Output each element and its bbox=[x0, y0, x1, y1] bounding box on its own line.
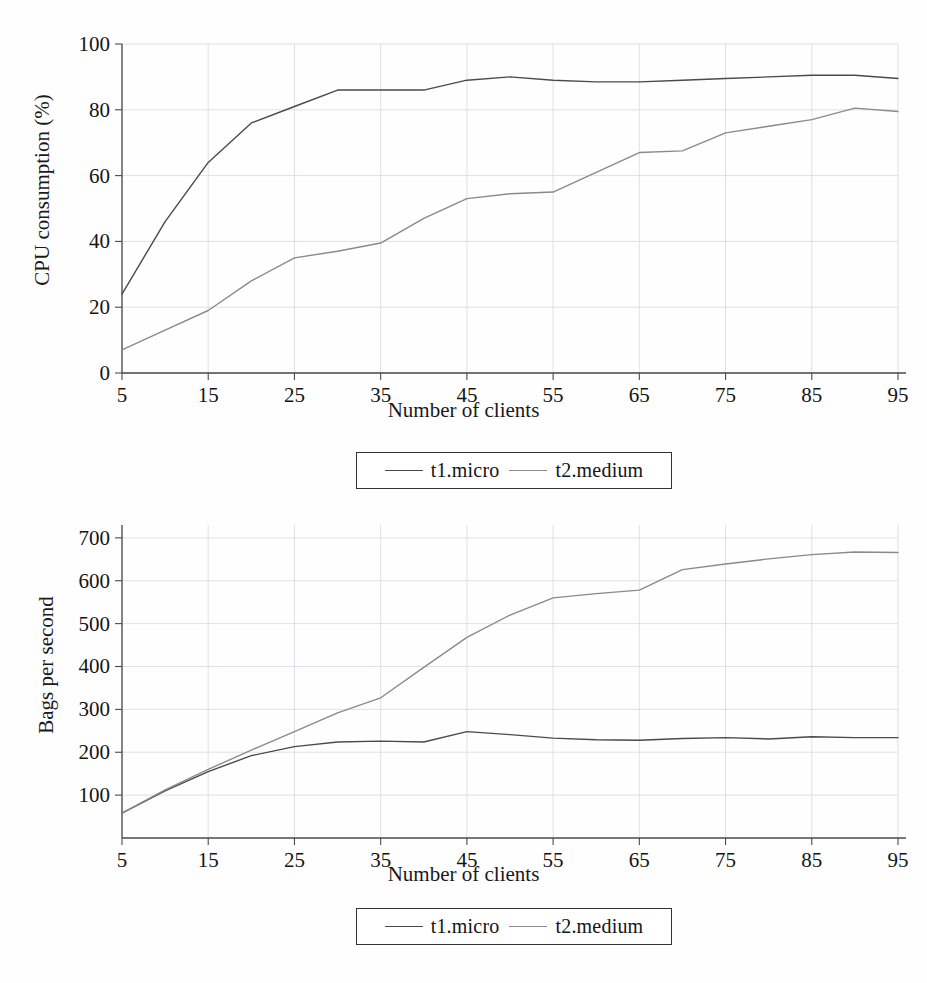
bags-per-second-plot: 1002003004005006007005152535455565758595 bbox=[0, 500, 927, 890]
y-tick-label: 200 bbox=[79, 740, 111, 764]
legend-label-t1-micro: t1.micro bbox=[431, 459, 500, 482]
cpu-x-axis-title: Number of clients bbox=[0, 398, 927, 423]
y-tick-label: 700 bbox=[79, 526, 111, 550]
y-tick-label: 600 bbox=[79, 569, 111, 593]
legend-entry-t2-medium: t2.medium bbox=[509, 459, 643, 482]
legend-entry-t1-micro: t1.micro bbox=[385, 915, 500, 938]
y-tick-label: 80 bbox=[89, 98, 110, 122]
throughput-legend: t1.micro t2.medium bbox=[356, 908, 672, 945]
y-tick-label: 100 bbox=[79, 32, 111, 56]
cpu-y-axis-title: CPU consumption (%) bbox=[30, 40, 55, 340]
legend-swatch-t2-medium bbox=[509, 470, 547, 471]
legend-entry-t1-micro: t1.micro bbox=[385, 459, 500, 482]
y-tick-label: 300 bbox=[79, 697, 111, 721]
series-line-t1-micro bbox=[122, 732, 898, 813]
cpu-consumption-plot: 0204060801005152535455565758595 bbox=[0, 0, 927, 440]
legend-swatch-t2-medium bbox=[509, 926, 547, 927]
y-tick-label: 60 bbox=[89, 164, 110, 188]
legend-swatch-t1-micro bbox=[385, 470, 423, 471]
legend-swatch-t1-micro bbox=[385, 926, 423, 927]
legend-label-t2-medium: t2.medium bbox=[555, 915, 643, 938]
series-line-t2-medium bbox=[122, 108, 898, 350]
y-tick-label: 100 bbox=[79, 783, 111, 807]
figure-page: 0204060801005152535455565758595 CPU cons… bbox=[0, 0, 927, 983]
y-tick-label: 400 bbox=[79, 654, 111, 678]
y-tick-label: 0 bbox=[100, 361, 111, 385]
legend-entry-t2-medium: t2.medium bbox=[509, 915, 643, 938]
throughput-figure: 1002003004005006007005152535455565758595… bbox=[0, 500, 927, 983]
y-tick-label: 20 bbox=[89, 295, 110, 319]
series-line-t1-micro bbox=[122, 75, 898, 294]
y-tick-label: 500 bbox=[79, 612, 111, 636]
legend-label-t2-medium: t2.medium bbox=[555, 459, 643, 482]
y-tick-label: 40 bbox=[89, 229, 110, 253]
cpu-legend: t1.micro t2.medium bbox=[356, 452, 672, 489]
series-line-t2-medium bbox=[122, 552, 898, 813]
throughput-x-axis-title: Number of clients bbox=[0, 862, 927, 887]
cpu-consumption-figure: 0204060801005152535455565758595 CPU cons… bbox=[0, 0, 927, 500]
throughput-y-axis-title: Bags per second bbox=[34, 520, 59, 810]
legend-label-t1-micro: t1.micro bbox=[431, 915, 500, 938]
